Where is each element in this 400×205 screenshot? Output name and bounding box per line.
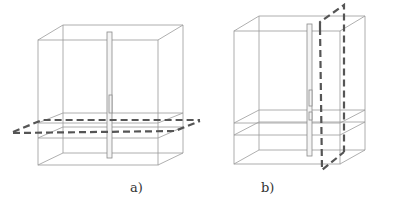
panel-b-label: b) — [261, 180, 274, 195]
panel-a-label: a) — [130, 180, 143, 195]
panel-a-rod — [107, 32, 112, 158]
figure-canvas — [0, 0, 400, 205]
panel-b-box — [234, 16, 365, 164]
panel-b-rod — [307, 24, 312, 156]
